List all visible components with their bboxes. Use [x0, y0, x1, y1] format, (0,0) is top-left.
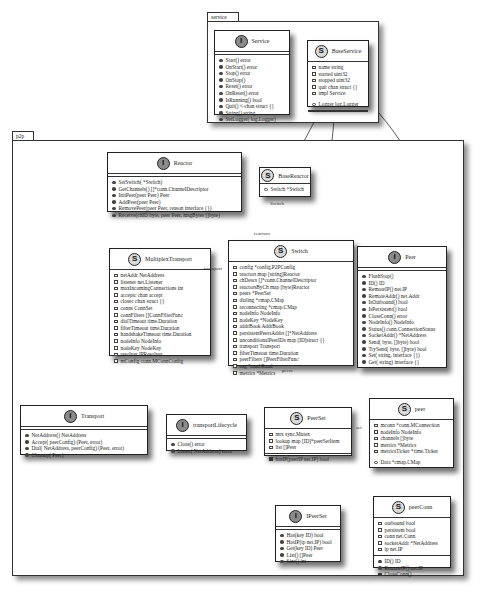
method-row: Status() conn.ConnectionStatus — [362, 326, 443, 333]
private-field-icon — [233, 312, 237, 316]
method-row: GetChannels() []*conn.ChannelDescriptor — [112, 186, 238, 193]
field-row: outbound bool — [378, 520, 447, 527]
method-row: FlushStop() — [362, 273, 443, 280]
private-field-icon — [114, 326, 118, 330]
edge-label-transport: transport — [204, 266, 222, 271]
public-method-icon — [362, 308, 366, 312]
field-row: nodeInfo NodeInfo — [233, 310, 350, 317]
method-row: NodeInfo() NodeInfo — [362, 319, 443, 326]
private-field-icon — [378, 541, 382, 545]
field-row: conns ConnSet — [114, 305, 207, 312]
class-peer-interface[interactable]: IPeer FlushStop() ID() ID RemoteIP() net… — [357, 246, 447, 368]
method-row: SetSwitch( *Switch) — [112, 179, 238, 186]
field-row: conn net.Conn — [378, 533, 447, 540]
method-row: Quit() <-chan struct {} — [219, 103, 286, 110]
public-method-icon — [362, 360, 366, 364]
private-field-icon — [233, 325, 237, 329]
public-method-icon — [362, 288, 366, 292]
public-method-icon — [25, 440, 29, 444]
public-method-icon — [219, 105, 223, 109]
method-row: ID() ID — [378, 558, 447, 565]
field-row: ip net.IP — [378, 546, 447, 553]
private-field-icon — [114, 333, 118, 337]
method-row: Has(key ID) bool — [280, 532, 337, 539]
private-field-icon — [114, 307, 118, 311]
public-method-icon — [362, 294, 366, 298]
field-row: started uint32 — [312, 71, 365, 78]
field-row: filterTimeout time.Duration — [114, 325, 207, 332]
class-transport[interactable]: ITransport NetAddress() NetAddress Accep… — [20, 405, 148, 455]
public-field-icon — [264, 188, 268, 192]
field-row: netAddr NetAddress — [114, 272, 207, 279]
private-field-icon — [233, 351, 237, 355]
private-field-icon — [374, 437, 378, 441]
method-row: CloseConn() — [378, 571, 447, 578]
private-field-icon — [114, 346, 118, 350]
class-name: transportLifecycle — [193, 422, 237, 428]
class-name: BaseService — [332, 48, 362, 54]
public-method-icon — [25, 434, 29, 438]
class-transport-lifecycle[interactable]: ItransportLifecycle Close() error Listen… — [166, 414, 247, 451]
class-name: Reactor — [174, 160, 193, 166]
field-row: lookup map [ID]*peerSetItem — [269, 438, 348, 445]
method-row: SetLogger( log.Logger) — [219, 116, 286, 123]
class-name: Service — [252, 38, 270, 44]
method-row: RemoteIP() net.IP — [362, 286, 443, 293]
class-reactor[interactable]: IReactor SetSwitch( *Switch) GetChannels… — [107, 152, 242, 212]
public-method-icon — [362, 281, 366, 285]
class-peer-set[interactable]: SPeerSet mtx sync.Mutex lookup map [ID]*… — [264, 407, 352, 456]
private-field-icon — [269, 439, 273, 443]
package-tab-service: service — [207, 12, 239, 21]
field-row: nodeKey NodeKey — [114, 345, 207, 352]
private-field-icon — [374, 424, 378, 428]
private-field-icon — [114, 280, 118, 284]
private-field-icon — [378, 528, 382, 532]
field-row: handshakeTimeout time.Duration — [114, 331, 207, 338]
public-method-icon — [362, 340, 366, 344]
public-method-icon — [362, 301, 366, 305]
field-row: unconditionalPeerIDs map [ID]struct {} — [233, 337, 350, 344]
field-row: acceptc chan accept — [114, 292, 207, 299]
method-row: IsOutbound() bool — [362, 299, 443, 306]
public-method-icon — [112, 181, 116, 185]
field-row: connFilters []ConnFilterFunc — [114, 312, 207, 319]
class-peer-struct[interactable]: Speer mconn *conn.MConnection nodeInfo N… — [369, 398, 454, 468]
public-method-icon — [362, 327, 366, 331]
public-method-icon — [378, 560, 382, 564]
field-row: reconnecting *cmap.CMap — [233, 304, 350, 311]
package-tab-p2p: p2p — [12, 131, 34, 140]
public-method-icon — [112, 200, 116, 204]
field-row: Switch *Switch — [264, 186, 307, 193]
method-row: OnReset() error — [219, 90, 286, 97]
private-field-icon — [233, 338, 237, 342]
public-method-icon — [219, 92, 223, 96]
public-method-icon — [362, 354, 366, 358]
private-method-icon — [269, 457, 273, 461]
class-base-reactor[interactable]: SBaseReactor Switch *Switch — [259, 167, 311, 197]
public-method-icon — [219, 59, 223, 63]
public-method-icon — [280, 553, 284, 557]
class-switch[interactable]: SSwitch config *config.P2PConfig reactor… — [228, 240, 354, 366]
field-row: filterTimeout time.Duration — [233, 350, 350, 357]
method-row: TrySend( byte, []byte) bool — [362, 346, 443, 353]
field-row: quit chan struct {} — [312, 84, 365, 91]
method-row: String() string — [219, 110, 286, 117]
struct-icon: S — [261, 169, 274, 182]
class-peer-conn[interactable]: SpeerConn outbound bool persistent bool … — [373, 496, 451, 568]
method-row: ID() ID — [362, 280, 443, 287]
private-field-icon — [378, 535, 382, 539]
method-row: NetAddress() NetAddress — [25, 432, 144, 439]
class-ipeerset[interactable]: IIPeerSet Has(key ID) bool HasIP(ip net.… — [275, 505, 341, 562]
public-field-icon — [312, 103, 316, 107]
interface-icon: I — [64, 410, 77, 423]
field-row: persistent bool — [378, 527, 447, 534]
class-base-service[interactable]: SBaseService name string started uint32 … — [307, 40, 369, 107]
method-row: Get(key ID) Peer — [280, 545, 337, 552]
field-row: dialTimeout time.Duration — [114, 318, 207, 325]
field-row: name string — [312, 64, 365, 71]
class-multiplex-transport[interactable]: SMultiplexTransport netAddr NetAddress l… — [109, 248, 211, 356]
field-row: nodeInfo NodeInfo — [374, 429, 450, 436]
struct-icon: S — [290, 412, 303, 425]
private-field-icon — [312, 66, 316, 70]
class-service[interactable]: IService Start() error OnStart() error S… — [214, 30, 290, 115]
